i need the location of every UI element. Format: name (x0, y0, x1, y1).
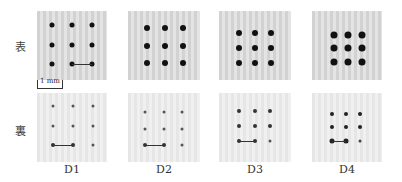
hole (268, 60, 274, 66)
hole (162, 43, 168, 49)
measure-line (239, 141, 255, 142)
panel-back-d2 (128, 93, 200, 162)
hole (359, 140, 362, 143)
hole (180, 43, 186, 49)
hole (181, 111, 184, 114)
hole (237, 109, 241, 113)
hole (253, 109, 257, 113)
hole (181, 144, 184, 147)
hole (237, 124, 241, 128)
hole (236, 45, 242, 51)
hole (331, 45, 338, 52)
hole (345, 45, 352, 52)
hole (331, 32, 338, 39)
hole (236, 60, 242, 66)
hole (180, 60, 186, 66)
hole (144, 43, 150, 49)
hole (90, 23, 95, 28)
panel-back-d1 (37, 93, 107, 162)
column-label-d3: D3 (220, 163, 290, 176)
hole (331, 59, 338, 66)
hole (344, 112, 348, 116)
hole (70, 43, 75, 48)
row-label-back: 裏 (15, 122, 26, 138)
hole (345, 32, 352, 39)
hole (70, 23, 75, 28)
panel-back-d4 (312, 93, 382, 162)
scale-bar-label: 1 mm (40, 77, 60, 85)
hole (252, 45, 258, 51)
hole (144, 60, 150, 66)
scale-bar: 1 mm (37, 80, 63, 89)
panel-front-d3 (219, 11, 291, 80)
hole (90, 43, 95, 48)
column-label-d2: D2 (129, 163, 199, 176)
hole (236, 30, 242, 36)
measure-line (145, 145, 164, 146)
hole (144, 111, 147, 114)
column-label-d4: D4 (312, 163, 382, 176)
hole (330, 112, 334, 116)
hole (92, 125, 95, 128)
hole (50, 62, 55, 67)
row-label-front: 表 (15, 38, 26, 54)
hole (181, 128, 184, 131)
hole (269, 140, 272, 143)
hole (268, 30, 274, 36)
hole (330, 125, 334, 129)
hole (268, 45, 274, 51)
hole (50, 43, 55, 48)
hole (345, 59, 352, 66)
hole (359, 59, 366, 66)
hole (52, 125, 55, 128)
hole (163, 128, 166, 131)
hole (92, 144, 95, 147)
measure-line (332, 141, 346, 142)
hole (359, 32, 366, 39)
hole (72, 105, 75, 108)
panel-back-d3 (219, 93, 291, 162)
hole (144, 25, 150, 31)
measure-line (72, 64, 92, 65)
hole (359, 45, 366, 52)
hole (92, 105, 95, 108)
hole (268, 109, 272, 113)
hole (268, 124, 272, 128)
hole (358, 112, 362, 116)
hole (180, 25, 186, 31)
panel-front-d1 (37, 11, 107, 80)
hole (253, 124, 257, 128)
hole (162, 60, 168, 66)
hole (344, 125, 348, 129)
hole (162, 25, 168, 31)
hole (72, 125, 75, 128)
panel-front-d4 (312, 11, 382, 80)
hole (252, 60, 258, 66)
hole (144, 128, 147, 131)
column-label-d1: D1 (37, 163, 107, 176)
hole (252, 30, 258, 36)
hole (50, 23, 55, 28)
panel-front-d2 (128, 11, 200, 80)
hole (358, 125, 362, 129)
measure-line (53, 145, 73, 146)
hole (163, 111, 166, 114)
hole (52, 105, 55, 108)
